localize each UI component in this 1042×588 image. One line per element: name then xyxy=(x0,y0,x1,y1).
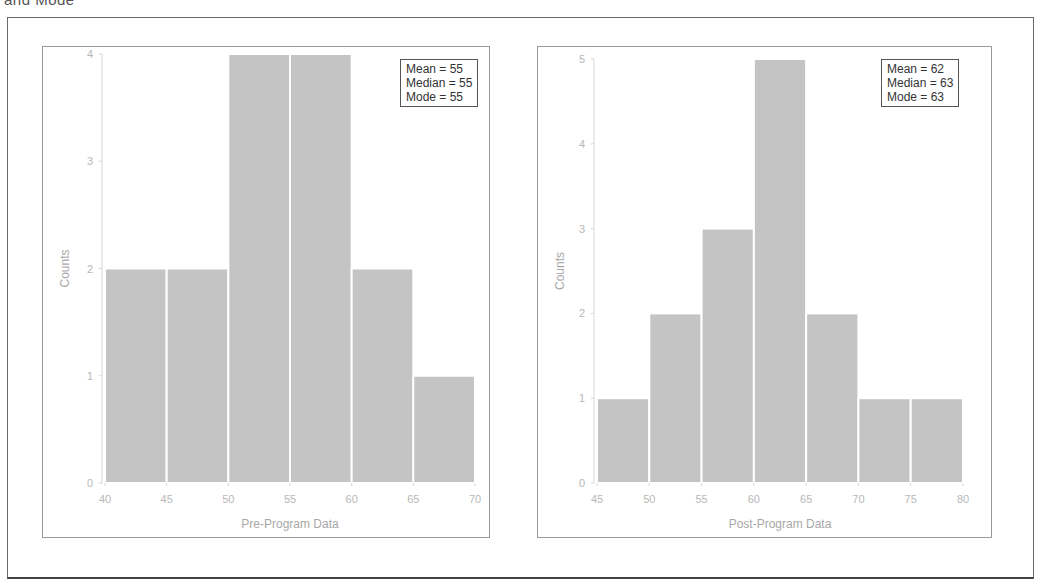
mode-label: Mode = 63 xyxy=(887,90,953,104)
x-tick-label: 50 xyxy=(222,493,234,505)
x-tick-label: 45 xyxy=(591,493,603,505)
x-tick-label: 60 xyxy=(748,493,760,505)
histogram-bar xyxy=(167,269,229,484)
x-tick-label: 70 xyxy=(469,493,481,505)
y-tick-label: 2 xyxy=(579,307,585,319)
x-axis-title: Post-Program Data xyxy=(729,517,832,531)
post-program-stats-box: Mean = 62 Median = 63 Mode = 63 xyxy=(881,59,959,107)
x-tick-label: 60 xyxy=(346,493,358,505)
median-label: Median = 63 xyxy=(887,76,953,90)
pre-program-stats-box: Mean = 55 Median = 55 Mode = 55 xyxy=(400,59,478,107)
y-axis-title: Counts xyxy=(58,249,72,287)
y-tick-label: 0 xyxy=(87,477,93,489)
histogram-bar xyxy=(105,269,167,484)
y-tick-label: 4 xyxy=(87,48,93,60)
x-tick-label: 45 xyxy=(161,493,173,505)
figure-caption-fragment: and Mode xyxy=(4,0,75,8)
y-tick-label: 3 xyxy=(579,223,585,235)
mean-label: Mean = 62 xyxy=(887,62,953,76)
histogram-bar xyxy=(702,229,754,483)
post-program-histogram: 0123454550556065707580Post-Program DataC… xyxy=(538,47,993,539)
histogram-bar xyxy=(806,313,858,483)
x-tick-label: 55 xyxy=(284,493,296,505)
y-axis-title: Counts xyxy=(553,252,567,290)
y-tick-label: 1 xyxy=(579,392,585,404)
pre-program-histogram: 0123440455055606570Pre-Program DataCount… xyxy=(43,47,491,539)
x-tick-label: 50 xyxy=(643,493,655,505)
pre-program-histogram-panel: 0123440455055606570Pre-Program DataCount… xyxy=(42,46,490,538)
y-tick-label: 4 xyxy=(579,138,585,150)
histogram-bar xyxy=(228,54,290,483)
histogram-bar xyxy=(649,313,701,483)
y-tick-label: 2 xyxy=(87,263,93,275)
y-tick-label: 0 xyxy=(579,477,585,489)
x-tick-label: 70 xyxy=(852,493,864,505)
x-tick-label: 40 xyxy=(99,493,111,505)
histogram-bar xyxy=(754,59,806,483)
histogram-bar xyxy=(290,54,352,483)
histogram-bar xyxy=(352,269,414,484)
y-tick-label: 5 xyxy=(579,53,585,65)
x-tick-label: 65 xyxy=(407,493,419,505)
x-tick-label: 80 xyxy=(957,493,969,505)
post-program-histogram-panel: 0123454550556065707580Post-Program DataC… xyxy=(537,46,992,538)
mode-label: Mode = 55 xyxy=(406,90,472,104)
y-tick-label: 3 xyxy=(87,155,93,167)
histogram-bar xyxy=(413,376,475,483)
x-tick-label: 75 xyxy=(905,493,917,505)
histogram-bar xyxy=(597,398,649,483)
y-tick-label: 1 xyxy=(87,370,93,382)
histogram-bar xyxy=(858,398,910,483)
x-tick-label: 55 xyxy=(695,493,707,505)
mean-label: Mean = 55 xyxy=(406,62,472,76)
x-axis-title: Pre-Program Data xyxy=(241,517,339,531)
histogram-bar xyxy=(911,398,963,483)
median-label: Median = 55 xyxy=(406,76,472,90)
x-tick-label: 65 xyxy=(800,493,812,505)
